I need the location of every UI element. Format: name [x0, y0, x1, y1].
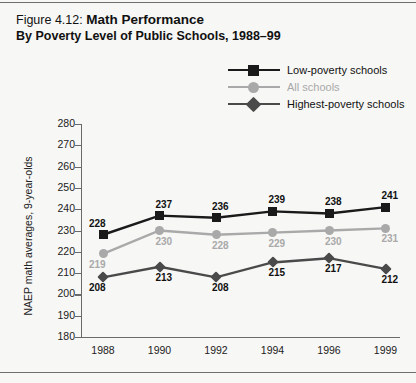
data-point-marker — [155, 211, 164, 220]
data-point-label: 208 — [89, 282, 106, 293]
data-point-label: 228 — [89, 218, 106, 229]
chart-plot-area: NAEP math averages, 9-year-olds 28027026… — [0, 0, 416, 383]
data-point-marker — [268, 207, 277, 216]
data-point-marker — [212, 230, 221, 239]
data-point-label: 219 — [89, 259, 106, 270]
data-point-label: 238 — [325, 196, 342, 207]
data-point-marker — [99, 249, 108, 258]
data-point-marker — [155, 226, 164, 235]
data-point-marker — [212, 213, 221, 222]
data-point-label: 208 — [212, 282, 229, 293]
data-point-marker — [381, 224, 390, 233]
data-point-label: 213 — [156, 272, 173, 283]
data-point-label: 212 — [382, 274, 399, 285]
data-point-marker — [381, 203, 390, 212]
data-point-label: 230 — [156, 236, 173, 247]
data-point-label: 237 — [156, 199, 173, 210]
data-point-marker — [325, 209, 334, 218]
data-point-label: 239 — [269, 194, 286, 205]
data-point-label: 228 — [212, 240, 229, 251]
data-point-label: 215 — [269, 267, 286, 278]
series-lines — [0, 0, 416, 383]
series-line — [103, 258, 386, 277]
data-point-label: 217 — [325, 263, 342, 274]
data-point-label: 231 — [382, 233, 399, 244]
data-point-marker — [325, 226, 334, 235]
data-point-label: 229 — [269, 238, 286, 249]
series-line — [103, 228, 386, 254]
data-point-label: 241 — [382, 190, 399, 201]
figure-page: Figure 4.12: Math Performance By Poverty… — [0, 0, 416, 383]
data-point-label: 230 — [325, 236, 342, 247]
data-point-marker — [99, 230, 108, 239]
data-point-label: 236 — [212, 201, 229, 212]
